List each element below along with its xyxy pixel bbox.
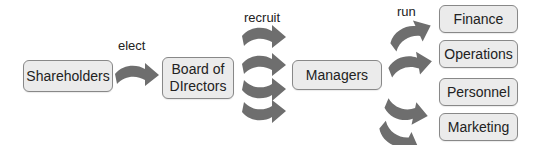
run-arrow-icon [386,49,433,79]
node-marketing: Marketing [439,113,518,141]
recruit-arrow-icon [242,100,286,123]
node-personnel: Personnel [439,78,518,106]
run-arrow-icon [386,15,436,54]
node-shareholders: Shareholders [23,60,113,92]
node-label: Personnel [447,84,510,101]
node-managers: Managers [292,60,382,90]
node-label: Operations [444,46,512,63]
edge-label-run: run [397,4,416,19]
node-label: Managers [306,67,368,84]
node-label: Shareholders [26,68,109,85]
node-board-of-directors: Board of DIrectors [162,57,234,99]
elect-arrow-icon [115,63,159,86]
recruit-arrow-icon [242,25,286,48]
node-finance: Finance [439,5,518,33]
edge-label-elect: elect [118,38,145,53]
edge-label-recruit: recruit [244,10,280,25]
recruit-arrow-icon [242,78,286,101]
node-label-line1: Board of [172,61,225,78]
node-label: Marketing [448,119,509,136]
recruit-arrow-icon [242,53,286,76]
run-arrow-icon [382,96,430,128]
node-operations: Operations [439,40,518,68]
node-label: Finance [454,11,504,28]
node-label-line2: DIrectors [170,78,227,95]
